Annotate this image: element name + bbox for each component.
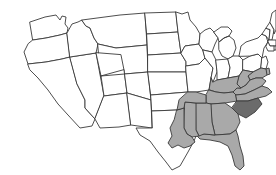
state-NY[interactable]: [239, 34, 268, 58]
us-map-svg: [0, 0, 276, 175]
state-SD[interactable]: [147, 32, 181, 55]
state-FL[interactable]: [196, 130, 244, 170]
state-ND[interactable]: [145, 12, 178, 34]
state-NJ[interactable]: [261, 56, 268, 69]
state-NE[interactable]: [148, 53, 186, 72]
state-MI[interactable]: [214, 27, 236, 59]
state-KS[interactable]: [148, 72, 188, 95]
us-choropleth-map: [0, 0, 276, 175]
